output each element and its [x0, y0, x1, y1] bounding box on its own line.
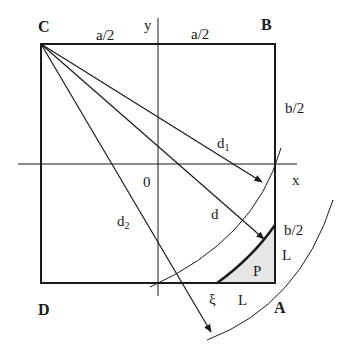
origin-label: 0 [143, 174, 151, 190]
label-l-horizontal: L [238, 292, 247, 308]
label-d: d [211, 206, 219, 222]
label-d2: d2 [117, 213, 130, 231]
ray-d2 [41, 44, 211, 332]
label-xi: ξ [209, 291, 216, 307]
ray-d1 [41, 44, 262, 182]
corner-label-c: C [38, 18, 50, 35]
region-p-fill [217, 225, 275, 283]
y-axis-label: y [144, 17, 152, 33]
dim-top-right: a/2 [191, 26, 209, 42]
region-label-p: P [253, 263, 261, 279]
ray-d [41, 44, 264, 239]
label-d2-sub: 2 [125, 220, 130, 231]
corner-label-d: D [38, 301, 50, 318]
dim-top-left: a/2 [96, 27, 114, 43]
square-radiation-diagram: C B A D y x 0 a/2 a/2 b/2 b/2 d1 d d2 P … [0, 0, 350, 353]
label-d1-sub: 1 [225, 142, 230, 153]
x-axis-label: x [292, 172, 300, 188]
dim-right-upper: b/2 [285, 100, 304, 116]
dim-right-lower: b/2 [284, 222, 303, 238]
label-l-vertical: L [282, 247, 291, 263]
label-d1: d1 [217, 135, 230, 153]
corner-label-a: A [274, 299, 286, 316]
corner-label-b: B [261, 16, 272, 33]
